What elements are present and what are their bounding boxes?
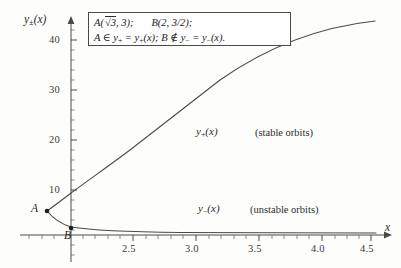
stable-orbits-note: (stable orbits) <box>255 128 313 139</box>
y-tick-label-30: 30 <box>49 85 60 96</box>
curve-y-plus <box>47 21 375 211</box>
point-B-label: B <box>64 230 71 242</box>
annotation-line-1: A(√3, 3);B(2, 3/2); <box>94 15 286 30</box>
x-tick-label-4-5: 4.5 <box>360 244 374 255</box>
point-A-marker <box>45 209 50 214</box>
y-tick-label-40: 40 <box>49 35 60 46</box>
y-axis <box>68 16 75 262</box>
x-tick-label-3-5: 3.5 <box>248 244 262 255</box>
y-tick-label-10: 10 <box>49 185 60 196</box>
x-axis-minor-ticks <box>29 235 359 239</box>
x-tick-label-3-0: 3.0 <box>185 244 199 255</box>
y-axis-major-ticks <box>71 40 77 190</box>
annotation-box: A(√3, 3);B(2, 3/2); A ∈ y+ = y+(x); B ∉ … <box>88 12 291 46</box>
y-axis-label: y±(x) <box>24 14 46 28</box>
y-axis-minor-ticks <box>71 30 75 255</box>
figure-canvas: y±(x) x 40 30 20 10 2.5 3.0 3.5 4.0 4.5 … <box>0 0 401 268</box>
y-tick-label-20: 20 <box>49 135 60 146</box>
unstable-orbits-note: (unstable orbits) <box>250 205 319 216</box>
curve-label-y-plus: y+(x) <box>196 126 218 139</box>
annotation-line-2: A ∈ y+ = y+(x); B ∉ y− = y−(x). <box>94 30 286 48</box>
x-tick-label-2-5: 2.5 <box>122 244 136 255</box>
x-axis-label: x <box>385 222 390 234</box>
point-A-label: A <box>31 203 38 215</box>
x-tick-label-4-0: 4.0 <box>311 244 325 255</box>
curve-label-y-minus: y−(x) <box>198 203 220 216</box>
